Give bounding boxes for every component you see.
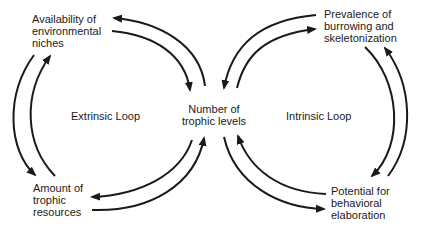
arrow-potential-to-center	[238, 136, 326, 194]
arrow-skeleton-to-center	[224, 15, 316, 88]
node-line: environmental	[32, 25, 101, 37]
extrinsic-loop-label: Extrinsic Loop	[71, 110, 140, 122]
arrow-niches-to-resources	[13, 55, 35, 175]
arrow-center-to-resources	[92, 140, 192, 197]
node-environmental-niches: Availability of environmental niches	[32, 13, 101, 49]
node-line: behavioral	[331, 197, 390, 209]
arrow-resources-to-niches	[31, 56, 55, 176]
node-line: elaboration	[331, 209, 390, 221]
node-line: Availability of	[32, 13, 101, 25]
node-burrowing-skeletonization: Prevalence of burrowing and skeletonizat…	[324, 8, 397, 44]
node-line: resources	[33, 206, 83, 218]
node-behavioral-elaboration: Potential for behavioral elaboration	[331, 185, 390, 221]
node-line: Number of	[176, 103, 252, 115]
node-line: trophic levels	[176, 115, 252, 127]
arrow-center-to-niches	[114, 18, 205, 86]
node-trophic-levels: Number of trophic levels	[176, 103, 252, 127]
arrow-center-to-skeleton	[237, 29, 315, 88]
node-trophic-resources: Amount of trophic resources	[33, 182, 83, 218]
node-line: Amount of	[33, 182, 83, 194]
node-line: niches	[32, 37, 101, 49]
arrow-skeleton-to-potential	[365, 47, 394, 176]
node-line: Potential for	[331, 185, 390, 197]
node-line: trophic	[33, 194, 83, 206]
node-line: Prevalence of	[324, 8, 397, 20]
node-line: skeletonization	[324, 32, 397, 44]
node-line: burrowing and	[324, 20, 397, 32]
intrinsic-loop-label: Intrinsic Loop	[286, 110, 351, 122]
arrow-center-to-potential	[224, 137, 324, 209]
arrow-potential-to-skeleton	[385, 48, 407, 176]
